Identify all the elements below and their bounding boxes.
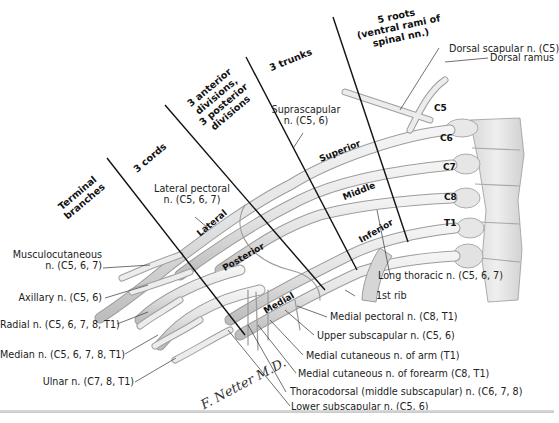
label-line: Musculocutaneous xyxy=(4,249,102,260)
label-long-thoracic: Long thoracic n. (C5, 6, 7) xyxy=(378,270,503,281)
label-line: Median n. (C5, 6, 7, 8, T1) xyxy=(0,349,124,360)
label-upper-subscapular: Upper subscapular n. (C5, 6) xyxy=(317,330,455,341)
label-suprascapular: Suprascapular n. (C5, 6) xyxy=(266,104,346,126)
root-c6: C6 xyxy=(440,133,453,143)
label-line: n. (C5, 6, 7) xyxy=(4,260,102,271)
label-median: Median n. (C5, 6, 7, 8, T1) xyxy=(0,349,124,360)
root-c8: C8 xyxy=(444,192,457,202)
label-line: n. (C5, 6, 7) xyxy=(142,194,242,205)
label-line: Axillary n. (C5, 6) xyxy=(4,292,102,303)
label-line: Lateral pectoral xyxy=(142,183,242,194)
label-line: Suprascapular xyxy=(266,104,346,115)
root-t1: T1 xyxy=(444,218,456,228)
root-c7: C7 xyxy=(443,162,456,172)
label-medial-cutaneous-arm: Medial cutaneous n. of arm (T1) xyxy=(306,350,459,361)
label-musculocutaneous: Musculocutaneous n. (C5, 6, 7) xyxy=(4,249,102,271)
label-ulnar: Ulnar n. (C7, 8, T1) xyxy=(20,376,134,387)
label-radial: Radial n. (C5, 6, 7, 8, T1) xyxy=(0,319,116,330)
label-line: n. (C5, 6) xyxy=(266,115,346,126)
label-first-rib: 1st rib xyxy=(376,290,407,301)
label-axillary: Axillary n. (C5, 6) xyxy=(4,292,102,303)
label-medial-pectoral: Medial pectoral n. (C8, T1) xyxy=(330,311,458,322)
bottom-divider xyxy=(0,410,554,413)
label-line: Ulnar n. (C7, 8, T1) xyxy=(20,376,134,387)
label-thoracodorsal: Thoracodorsal (middle subscapular) n. (C… xyxy=(290,386,522,397)
label-dorsal-ramus: Dorsal ramus xyxy=(490,52,554,63)
label-line: Radial n. (C5, 6, 7, 8, T1) xyxy=(0,319,116,330)
label-lateral-pectoral: Lateral pectoral n. (C5, 6, 7) xyxy=(142,183,242,205)
root-c5: C5 xyxy=(434,103,447,113)
label-medial-cutaneous-forearm: Medial cutaneous n. of forearm (C8, T1) xyxy=(298,368,489,379)
